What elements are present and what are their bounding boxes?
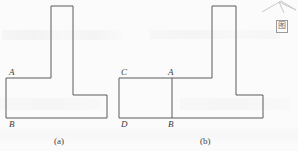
label-a-B: B [9,120,15,129]
figure-page: A B C A D B (a) (b) 图 [0,0,298,151]
figure-a-outline [6,6,107,118]
label-b-B: B [168,120,174,129]
figure-b-outline [119,6,263,118]
pencil-arrow-icon [262,1,296,13]
label-a-A: A [9,68,15,77]
label-b-C: C [121,68,127,77]
geometry-figures [0,0,298,151]
caption-figure-b: (b) [200,137,211,146]
caption-figure-a: (a) [54,137,64,146]
label-b-A: A [168,68,174,77]
label-b-D: D [121,120,128,129]
boxed-figure-marker: 图 [276,20,288,33]
